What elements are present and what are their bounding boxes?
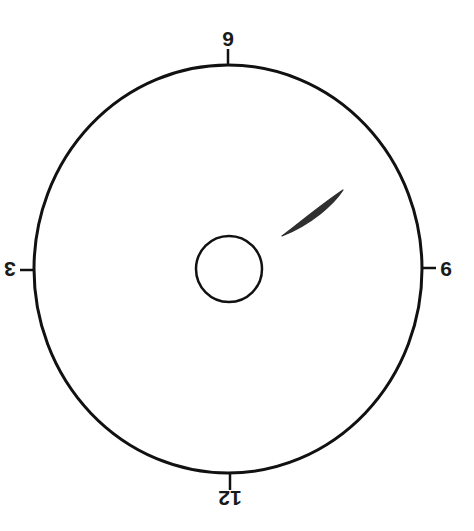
label-bottom: 12 [218, 487, 241, 510]
central-ring [196, 236, 262, 302]
label-right: 6 [440, 257, 452, 280]
clock-dial-diagram: 9 12 3 6 [0, 0, 474, 531]
label-left: 3 [4, 258, 16, 281]
lesion-mark [282, 190, 343, 236]
outer-dial-circle [34, 65, 422, 473]
label-top: 9 [222, 27, 234, 50]
